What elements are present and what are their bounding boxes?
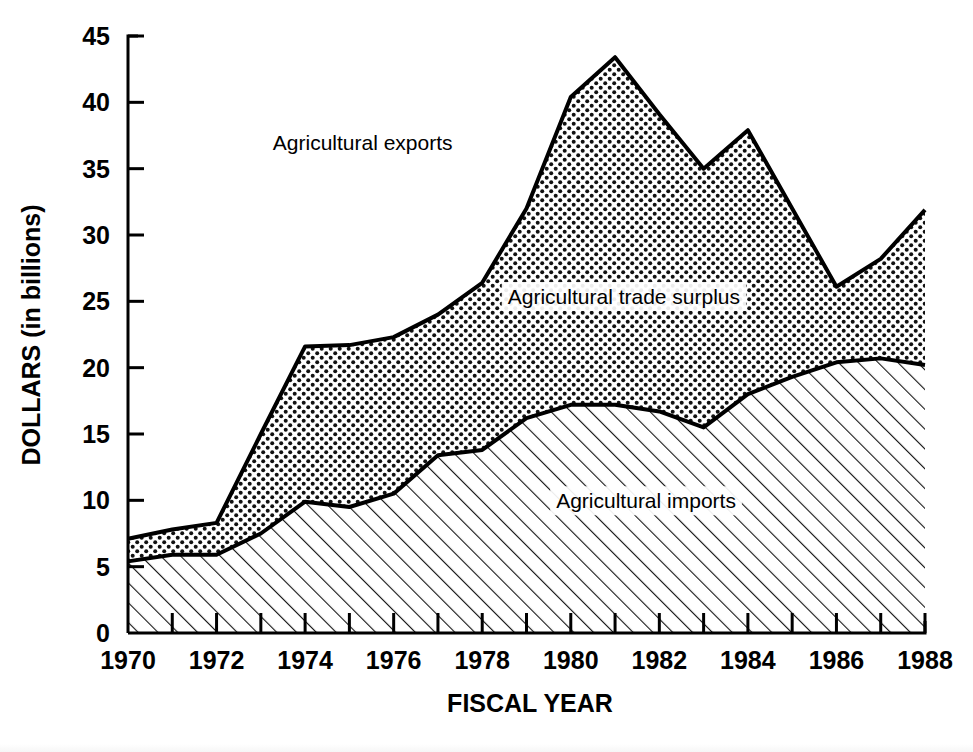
y-tick-label: 45: [82, 22, 110, 50]
area-chart-svg: 051015202530354045 197019721974197619781…: [0, 0, 973, 752]
x-tick-label: 1980: [543, 646, 599, 674]
y-tick-label: 5: [96, 553, 110, 581]
annotation-label: Agricultural trade surplus: [508, 285, 740, 308]
y-axis-title: DOLLARS (in billions): [17, 204, 45, 465]
y-tick-label: 0: [96, 619, 110, 647]
x-tick-label: 1978: [454, 646, 510, 674]
x-tick-label: 1974: [277, 646, 333, 674]
x-tick-label: 1984: [720, 646, 776, 674]
y-tick-label: 20: [82, 354, 110, 382]
y-tick-label: 25: [82, 287, 110, 315]
x-axis-title: FISCAL YEAR: [447, 689, 613, 717]
series-annotation: Agricultural imports: [550, 486, 742, 515]
x-tick-label: 1988: [897, 646, 953, 674]
x-tick-label: 1976: [366, 646, 422, 674]
annotation-label: Agricultural exports: [273, 131, 453, 154]
x-tick-label: 1982: [632, 646, 688, 674]
chart-figure: 051015202530354045 197019721974197619781…: [0, 0, 973, 752]
y-tick-label: 40: [82, 88, 110, 116]
x-tick-label: 1970: [100, 646, 156, 674]
y-tick-label: 35: [82, 155, 110, 183]
annotation-label: Agricultural imports: [556, 489, 736, 512]
x-tick-label: 1986: [809, 646, 865, 674]
series-annotation: Agricultural trade surplus: [502, 282, 746, 311]
y-tick-label: 30: [82, 221, 110, 249]
y-tick-label: 15: [82, 420, 110, 448]
x-tick-label: 1972: [189, 646, 245, 674]
y-tick-label: 10: [82, 486, 110, 514]
page-edge-fade: [0, 744, 973, 752]
series-annotation: Agricultural exports: [267, 128, 459, 157]
